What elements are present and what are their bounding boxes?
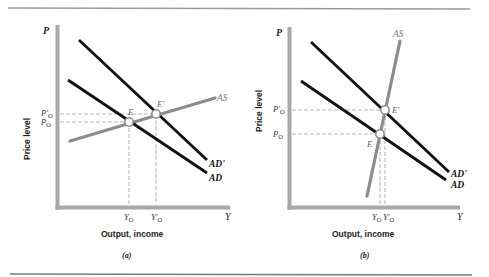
ad-as-figure: P Y Price level Output, income (a) AS AD… (0, 0, 489, 277)
panel-a-x-symbol: Y (225, 211, 232, 222)
panel-a-ad-label: AD (208, 173, 222, 183)
panel-b-y-symbol: P (276, 27, 283, 38)
panel-b: P Y Price level Output, income (b) AS AD… (254, 27, 467, 260)
panel-a-e-prime-label: E' (156, 99, 165, 109)
panel-b-caption: (b) (360, 251, 370, 260)
panel-b-p0-label: PO (272, 129, 283, 140)
panel-b-e-label: E (366, 139, 373, 149)
panel-a-y-symbol: P (43, 25, 50, 36)
panel-b-y0-prime-label: Y'O (383, 212, 395, 223)
panel-b-point-e (376, 130, 384, 138)
panel-b-p0-prime-label: P'O (272, 104, 285, 115)
bottom-rule (10, 274, 472, 275)
panel-a-as-curve (70, 98, 215, 141)
panel-b-point-e-prime (381, 106, 389, 114)
top-rule (8, 8, 470, 9)
panel-a-y-title: Price level (22, 118, 32, 160)
panel-b-y0-label: YO (372, 212, 382, 223)
panel-b-x-title: Output, income (332, 229, 395, 239)
panel-a-ad-prime-label: AD' (208, 159, 225, 169)
panel-b-ad-prime-label: AD' (450, 169, 467, 179)
panel-a-as-label: AS (216, 93, 228, 103)
panel-a-x-title: Output, income (101, 229, 164, 239)
panel-b-e-prime-label: E' (391, 105, 400, 115)
panel-a-point-e (125, 118, 133, 126)
panel-a: P Y Price level Output, income (a) AS AD… (22, 25, 232, 260)
panel-a-y0-label: YO (124, 212, 134, 223)
panel-a-e-label: E (127, 107, 134, 117)
panel-b-x-symbol: Y (457, 211, 464, 222)
panel-b-as-label: AS (392, 29, 404, 39)
panel-a-caption: (a) (122, 251, 132, 260)
panel-b-as-curve (367, 41, 400, 196)
panel-a-y0-prime-label: Y'O (151, 212, 163, 223)
panel-b-y-title: Price level (254, 90, 264, 132)
panel-b-ad-label: AD (450, 180, 464, 190)
panel-b-guides (292, 110, 385, 205)
panel-a-point-e-prime (152, 110, 160, 118)
